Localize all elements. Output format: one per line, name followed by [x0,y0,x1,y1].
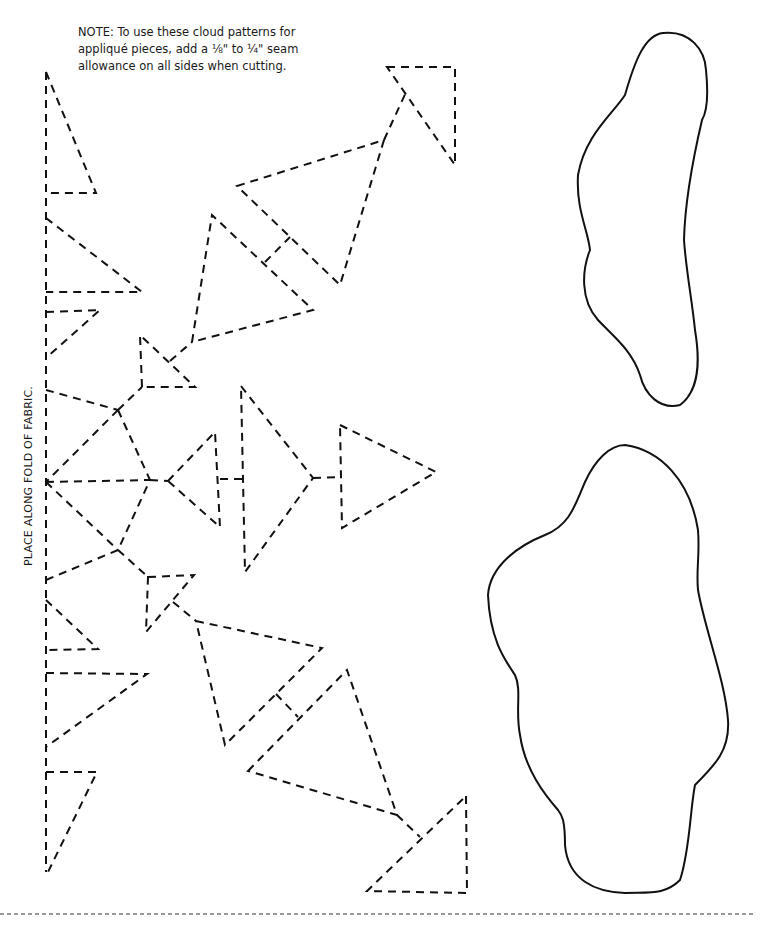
cloud-pattern-small [578,33,707,406]
cloud-pattern-large [488,445,728,893]
pattern-artwork [0,0,760,942]
snowflake-pattern [46,67,467,893]
